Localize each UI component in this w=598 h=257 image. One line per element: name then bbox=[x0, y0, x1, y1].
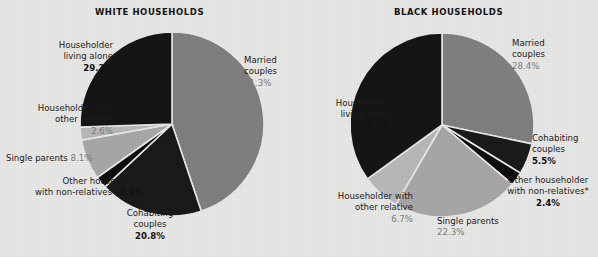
label-line: couples bbox=[512, 49, 598, 60]
label-line: Householder bbox=[298, 98, 390, 109]
label-value: 20.8% bbox=[105, 231, 195, 242]
label-line: Cohabiting bbox=[105, 208, 195, 219]
label-line: Cohabiting bbox=[532, 133, 598, 144]
label-white-cohabiting: Cohabiting couples 20.8% bbox=[105, 208, 195, 242]
label-value: 2.4% bbox=[498, 198, 598, 209]
label-value: 5.5% bbox=[532, 156, 598, 167]
label-line: with non-relatives* bbox=[498, 186, 598, 197]
label-black-single-parents: Single parents 22.3% bbox=[437, 216, 527, 239]
label-value: 6.7% bbox=[300, 214, 413, 225]
label-inline: with non-relatives* 2.4% bbox=[0, 187, 143, 198]
label-line: couples bbox=[244, 66, 299, 77]
label-line: Other householder bbox=[498, 175, 598, 186]
label-value: 35.1% bbox=[298, 121, 390, 132]
label-black-cohabiting: Cohabiting couples 5.5% bbox=[532, 133, 598, 167]
label-line: Married bbox=[244, 55, 299, 66]
label-line: Householder with bbox=[300, 191, 413, 202]
label-white-single-parents: Single parents 8.1% bbox=[6, 153, 146, 164]
pie-chart-figure: { "figure": { "footnote_marker": "*" }, … bbox=[0, 0, 598, 257]
label-line: Single parents bbox=[437, 216, 527, 227]
label-value: 2.6% bbox=[0, 126, 113, 137]
label-line: Married bbox=[512, 38, 598, 49]
label-line: couples bbox=[105, 219, 195, 230]
label-line: couples bbox=[532, 144, 598, 155]
label-black-married: Married couples 28.4% bbox=[512, 38, 598, 72]
label-value: 8.1% bbox=[71, 153, 93, 163]
label-line: Householder with bbox=[0, 103, 113, 114]
label-white-other-relative: Householder with other relative 2.6% bbox=[0, 103, 113, 137]
label-line: Single parents bbox=[6, 153, 68, 163]
label-value: 28.4% bbox=[512, 61, 598, 72]
label-line: living alone bbox=[298, 109, 390, 120]
label-value: 22.3% bbox=[437, 227, 527, 238]
label-line: living alone bbox=[8, 51, 113, 62]
label-black-other-nonrelatives: Other householder with non-relatives* 2.… bbox=[498, 175, 598, 209]
label-line: other relative bbox=[300, 202, 413, 213]
label-white-living-alone: Householder living alone 29.2% bbox=[8, 40, 113, 74]
label-inline: Single parents 8.1% bbox=[6, 153, 146, 164]
label-white-other-nonrelatives: Other householder with non-relatives* 2.… bbox=[0, 176, 143, 199]
label-value: 51.3% bbox=[244, 78, 299, 89]
label-line: with non-relatives* bbox=[35, 187, 116, 197]
label-line: other relative bbox=[0, 114, 113, 125]
label-value: 2.4% bbox=[119, 187, 143, 197]
label-white-married: Married couples 51.3% bbox=[244, 55, 299, 89]
label-value: 29.2% bbox=[8, 63, 113, 74]
label-line: Other householder bbox=[0, 176, 143, 187]
label-black-other-relative: Householder with other relative 6.7% bbox=[300, 191, 413, 225]
label-line: Householder bbox=[8, 40, 113, 51]
label-black-living-alone: Householder living alone 35.1% bbox=[298, 98, 390, 132]
